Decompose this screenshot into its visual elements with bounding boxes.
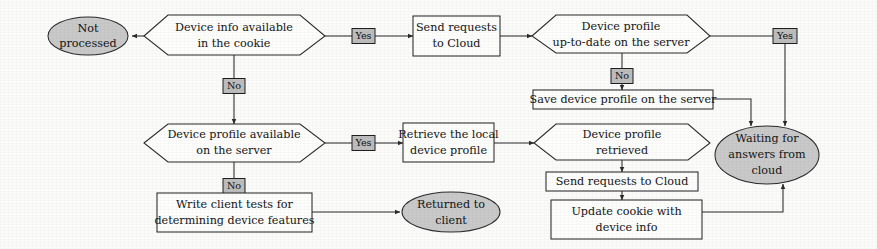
edge-label-uptodate-yes: Yes — [773, 29, 797, 44]
node-retrieve-local-profile[interactable]: Retrieve the local device profile — [398, 123, 499, 162]
node-not-processed-line1: Not — [77, 22, 99, 35]
node-returned-line1: Returned to — [417, 198, 485, 211]
node-write-client-tests-line2: determining device features — [154, 214, 314, 227]
edge-label-available-no: No — [223, 179, 245, 194]
node-not-processed-line2: processed — [59, 37, 116, 50]
edge-label-uptodate-no-text: No — [615, 70, 629, 81]
node-write-client-tests[interactable]: Write client tests for determining devic… — [154, 193, 314, 232]
node-profile-retrieved[interactable]: Device profile retrieved — [534, 124, 710, 160]
node-save-profile-server[interactable]: Save device profile on the server — [530, 90, 717, 109]
node-profile-available-server[interactable]: Device profile available on the server — [144, 124, 325, 162]
edge-save-to-waiting — [713, 99, 751, 126]
node-send-requests-cloud[interactable]: Send requests to Cloud — [413, 16, 500, 56]
node-send-requests-cloud-line1: Send requests — [416, 21, 497, 34]
node-profile-retrieved-line2: retrieved — [596, 144, 648, 157]
edge-label-cookie-yes-text: Yes — [354, 30, 371, 41]
edge-label-available-yes: Yes — [352, 136, 375, 151]
edge-label-uptodate-yes-text: Yes — [776, 30, 793, 41]
node-device-info-cookie[interactable]: Device info available in the cookie — [144, 15, 325, 55]
node-retrieve-local-line1: Retrieve the local — [398, 128, 499, 141]
node-profile-retrieved-line1: Device profile — [583, 128, 662, 141]
node-waiting-line1: Waiting for — [736, 132, 800, 145]
node-send-requests-cloud-2-line1: Send requests to Cloud — [556, 175, 689, 188]
node-waiting-line3: cloud — [752, 164, 783, 177]
node-device-info-cookie-line2: in the cookie — [198, 37, 271, 50]
node-send-requests-cloud-2[interactable]: Send requests to Cloud — [546, 172, 698, 191]
node-profile-available-line2: on the server — [196, 144, 272, 157]
flowchart-svg: Not processed Device info available in t… — [0, 0, 877, 249]
edge-update-to-waiting — [702, 184, 783, 212]
edge-label-uptodate-no: No — [611, 69, 633, 84]
edge-label-available-no-text: No — [227, 180, 241, 191]
node-profile-up-to-date-line1: Device profile — [582, 20, 661, 33]
node-returned-to-client[interactable]: Returned to client — [402, 192, 500, 232]
node-save-profile-server-line1: Save device profile on the server — [530, 93, 717, 106]
node-device-info-cookie-line1: Device info available — [175, 21, 293, 34]
node-profile-available-line1: Device profile available — [167, 128, 301, 141]
flowchart-canvas: Not processed Device info available in t… — [0, 0, 877, 249]
edge-label-cookie-yes: Yes — [352, 29, 375, 44]
node-retrieve-local-line2: device profile — [410, 144, 487, 157]
node-waiting-line2: answers from — [728, 148, 806, 161]
edge-label-available-yes-text: Yes — [354, 137, 371, 148]
edge-label-cookie-no: No — [223, 79, 245, 94]
edge-label-cookie-no-text: No — [227, 80, 241, 91]
node-send-requests-cloud-line2: to Cloud — [432, 37, 480, 50]
node-not-processed[interactable]: Not processed — [48, 17, 128, 55]
node-waiting-for-answers[interactable]: Waiting for answers from cloud — [715, 126, 819, 184]
node-update-cookie-line1: Update cookie with — [571, 205, 681, 218]
node-profile-up-to-date[interactable]: Device profile up-to-date on the server — [532, 15, 710, 53]
node-update-cookie[interactable]: Update cookie with device info — [551, 200, 702, 239]
node-profile-up-to-date-line2: up-to-date on the server — [552, 36, 690, 49]
edge-uptodate-yes — [710, 36, 785, 126]
node-write-client-tests-line1: Write client tests for — [176, 198, 293, 211]
node-update-cookie-line2: device info — [596, 221, 658, 234]
node-returned-line2: client — [435, 214, 467, 227]
